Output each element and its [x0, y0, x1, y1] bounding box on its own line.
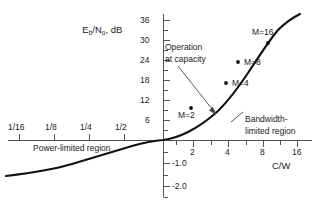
x-tick-8: 8 [260, 147, 265, 157]
y-axis-title: Eb/No, dB [77, 13, 122, 35]
point-label-m8: M=8 [244, 57, 261, 67]
y-tick-neg-2: -2.0 [172, 181, 187, 191]
y-tick-neg-1: -1.0 [172, 158, 187, 168]
x-tick-1-16: 1/16 [8, 122, 25, 132]
annotation-bandwidth-limited-region-line2: limited region [245, 126, 296, 136]
annotation-power-limited-region: Power-limited region [33, 143, 110, 153]
x-tick-1-2: 1/2 [115, 122, 127, 132]
x-axis-ticks-left [20, 134, 125, 141]
point-label-m16: M=16 [252, 27, 274, 37]
x-tick-16: 16 [292, 147, 301, 157]
annotation-operation-at-capacity-line1: Operation [165, 42, 202, 52]
x-tick-2: 2 [190, 147, 195, 157]
capacity-arrow [178, 66, 216, 114]
y-tick-24: 24 [140, 55, 149, 65]
y-tick-6: 6 [145, 115, 150, 125]
annotation-bandwidth-limited-region-line1: Bandwidth- [245, 114, 288, 124]
point-label-m4: M=4 [232, 78, 249, 88]
x-axis-title: C/W [272, 160, 290, 171]
y-tick-12: 12 [140, 95, 149, 105]
annotation-operation-at-capacity-line2: at capacity [165, 54, 206, 64]
y-tick-18: 18 [140, 75, 149, 85]
y-axis-ticks-positive [164, 21, 171, 131]
x-tick-4: 4 [225, 147, 230, 157]
point-label-m2: M=2 [178, 110, 195, 120]
data-point-m4 [224, 81, 228, 85]
x-tick-1-4: 1/4 [80, 122, 92, 132]
y-axis-ticks-negative [164, 153, 171, 198]
data-point-m16 [266, 41, 270, 45]
bandwidth-arrow [231, 112, 243, 122]
data-point-m8 [236, 60, 240, 64]
y-tick-30: 30 [140, 35, 149, 45]
x-tick-1-8: 1/8 [45, 122, 57, 132]
y-tick-36: 36 [140, 15, 149, 25]
